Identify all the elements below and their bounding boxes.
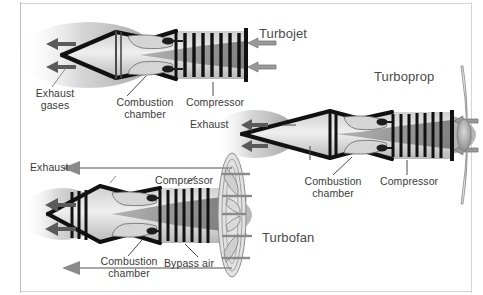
label-turbojet-compressor: Compressor	[186, 97, 244, 109]
label-turbojet-exhaust-gases: Exhaust gases	[24, 88, 86, 112]
label-turbofan-combustion-chamber: Combustion chamber	[84, 256, 174, 280]
engine-title-turboprop: Turboprop	[374, 70, 434, 85]
turbojet-compressor-blades	[185, 33, 239, 77]
label-turbofan-exhaust: Exhaust	[30, 162, 69, 174]
engine-title-turbofan: Turbofan	[262, 231, 314, 246]
label-turbojet-combustion-chamber: Combustion chamber	[104, 97, 186, 121]
label-turboprop-combustion-chamber: Combustion chamber	[290, 176, 376, 200]
label-turbofan-compressor: Compressor	[155, 175, 213, 187]
engine-title-turbojet: Turbojet	[259, 27, 307, 42]
label-turboprop-exhaust: Exhaust	[190, 119, 229, 131]
label-turboprop-compressor: Compressor	[380, 176, 438, 188]
label-turbofan-bypass-air: Bypass air	[164, 258, 214, 270]
diagram-canvas	[0, 0, 483, 295]
